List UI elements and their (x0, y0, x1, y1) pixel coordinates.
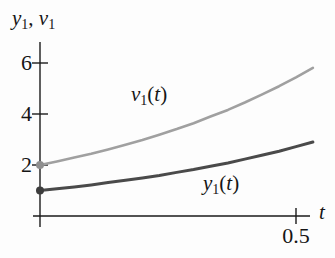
y-axis-title-comma: , (28, 6, 39, 30)
y-tick-label-4: 4 (8, 102, 32, 126)
figure: y1, v1 6 4 2 0.5 v1(t) y1(t) t (0, 0, 335, 258)
y1-curve-label: y1(t) (203, 172, 239, 194)
y-axis-title-y: y (12, 6, 21, 30)
y-tick-label-6: 6 (8, 51, 32, 75)
curve-v1 (40, 68, 313, 165)
y-tick-label-2: 2 (8, 153, 32, 177)
v1-curve-label-close-paren: ) (160, 82, 167, 106)
y1-curve-label-close-paren: ) (232, 171, 239, 195)
y-axis-title: y1, v1 (12, 7, 55, 29)
y-axis-title-v-sub: 1 (48, 17, 55, 32)
plot-canvas (0, 0, 335, 258)
y1-start-marker (36, 187, 44, 195)
v1-curve-label-v: v (131, 82, 140, 106)
x-tick-label-0-5: 0.5 (274, 224, 318, 248)
curve-y1 (40, 142, 313, 190)
y-axis-title-v: v (39, 6, 48, 30)
v1-curve-label: v1(t) (131, 83, 167, 105)
y1-curve-label-y: y (203, 171, 212, 195)
x-axis-label: t (319, 201, 325, 223)
v1-start-marker (36, 161, 44, 169)
x-axis-label-t: t (319, 200, 325, 224)
